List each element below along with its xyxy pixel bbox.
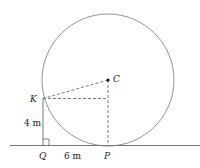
label-P: P	[103, 151, 111, 161]
center-point	[106, 78, 109, 81]
label-Q: Q	[39, 151, 47, 161]
right-angle-marker	[43, 139, 49, 146]
segment-CK	[43, 80, 108, 99]
label-QP-length: 6 m	[64, 151, 82, 161]
label-KQ-length: 4 m	[24, 118, 42, 128]
circle-tangent-diagram: C K Q P 4 m 6 m	[0, 0, 200, 168]
label-K: K	[29, 94, 38, 104]
label-C: C	[113, 74, 120, 84]
